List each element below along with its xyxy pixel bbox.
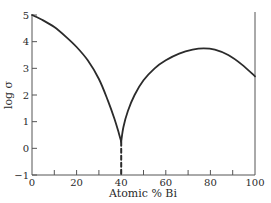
x-tick-label: 20 [70,177,83,188]
y-tick-label: 4 [23,36,29,47]
x-tick-label: 100 [245,177,264,188]
y-tick-label: −1 [14,170,29,181]
y-tick-label: 0 [23,143,29,154]
y-tick-label: 1 [23,116,29,127]
y-tick-label: 5 [23,10,29,21]
y-axis-label: log σ [2,80,15,109]
y-tick-label: 3 [23,63,29,74]
chart: −1012345020406080100 Atomic % Bi log σ [0,0,271,203]
x-tick-label: 80 [204,177,217,188]
series-conductivity-right [121,48,255,141]
y-tick-label: 2 [23,90,29,101]
x-axis-label: Atomic % Bi [108,187,177,200]
axes: −1012345020406080100 [14,10,264,189]
series-conductivity [32,15,121,142]
plot-area [32,15,255,175]
x-tick-label: 0 [29,177,35,188]
